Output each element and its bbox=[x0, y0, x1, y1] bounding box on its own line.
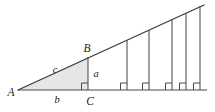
label-side-c: c bbox=[53, 64, 58, 75]
geometry-figure: A B C a b c bbox=[0, 0, 215, 112]
label-side-a: a bbox=[93, 68, 98, 79]
label-side-b: b bbox=[54, 94, 59, 105]
label-vertex-c: C bbox=[86, 95, 94, 107]
figure-background bbox=[0, 0, 215, 112]
label-vertex-a: A bbox=[6, 86, 15, 98]
label-vertex-b: B bbox=[83, 42, 90, 54]
figure-canvas: A B C a b c bbox=[0, 0, 215, 112]
